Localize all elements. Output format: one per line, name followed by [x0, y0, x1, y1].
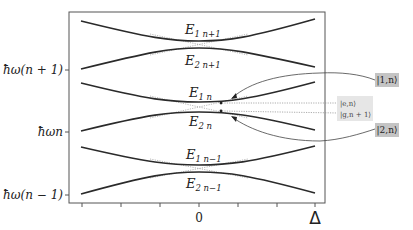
- x-axis-ticks: [82, 203, 315, 207]
- y-label-n: ħωn: [38, 125, 63, 139]
- y-label-n-plus-1: ħω(n + 1): [3, 63, 63, 77]
- label-E1-n: E1 n: [188, 85, 212, 102]
- label-E2-n-minus-1: E2 n−1: [185, 176, 222, 193]
- x-label-delta: Δ: [309, 208, 321, 228]
- state-label-2n: |2,n⟩: [375, 123, 399, 137]
- state-label-1n: |1,n⟩: [375, 73, 399, 87]
- label-e-n: |e,n⟩: [340, 100, 356, 108]
- x-label-zero: 0: [195, 211, 203, 225]
- state-label-bare: |e,n⟩ |g,n + 1⟩: [337, 96, 373, 121]
- bare-pointer-lines: [222, 103, 338, 113]
- dressed-arrowheads: [231, 93, 237, 122]
- svg-text:|2,n⟩: |2,n⟩: [377, 125, 398, 136]
- label-E1-n-plus-1: E1 n+1: [184, 22, 221, 39]
- label-E2-n: E2 n: [188, 114, 212, 131]
- y-axis-ticks: [65, 70, 69, 195]
- label-g-n-plus-1: |g,n + 1⟩: [340, 111, 371, 119]
- label-E2-n-plus-1: E2 n+1: [184, 53, 221, 70]
- bare-state-dots: [220, 102, 223, 113]
- y-label-n-minus-1: ħω(n − 1): [3, 188, 63, 202]
- label-E1-n-minus-1: E1 n−1: [185, 147, 222, 164]
- svg-text:|1,n⟩: |1,n⟩: [377, 75, 398, 86]
- energy-level-diagram: ħω(n + 1) ħωn ħω(n − 1) 0 Δ E1 n+1 E2 n+…: [0, 0, 413, 230]
